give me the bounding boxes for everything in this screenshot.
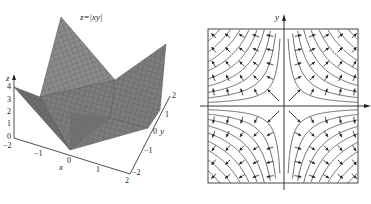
arrow-head-icon	[240, 89, 243, 93]
arrow-head-icon	[267, 175, 270, 178]
arrow-head-icon	[298, 147, 302, 150]
surface-plot-panel: z 4 3 2 1 0 −2 −1 0 1 2 x −2 −1 0 y 1 2 …	[0, 0, 190, 204]
vf-y-axis-arrow-icon	[282, 14, 286, 21]
level-curve	[208, 171, 220, 183]
arrow-head-icon	[212, 120, 215, 123]
arrow-head-icon	[298, 62, 302, 65]
arrow-head-icon	[325, 120, 328, 124]
z-tick-0: 0	[7, 132, 11, 141]
arrow-head-icon	[298, 175, 301, 178]
y-tick-2: 2	[172, 91, 176, 100]
vector-field-panel: y	[185, 0, 371, 204]
y-tick-1: 1	[165, 110, 169, 119]
level-curve	[208, 29, 220, 41]
x-tick-1: 1	[96, 165, 100, 174]
x-tick-neg1: −1	[34, 149, 43, 158]
y-axis-label: y	[159, 126, 164, 136]
origin-arrow	[272, 94, 279, 101]
arrow-head-icon	[353, 120, 356, 123]
level-curve	[311, 134, 358, 182]
origin-arrow	[272, 111, 279, 118]
z-tick-2: 2	[7, 107, 11, 116]
level-curve	[304, 127, 358, 183]
arrow-head-icon	[325, 89, 328, 93]
level-curve	[208, 110, 280, 174]
level-curve	[304, 29, 358, 85]
surface-plot: z 4 3 2 1 0 −2 −1 0 1 2 x −2 −1 0 y 1 2 …	[0, 0, 190, 204]
level-curve	[288, 39, 358, 103]
z-axis-arrow-icon	[12, 74, 16, 80]
x-axis-label: x	[58, 162, 63, 172]
level-curve	[208, 39, 280, 103]
vf-x-axis-arrow-icon	[364, 104, 371, 108]
y-tick-neg1: −1	[144, 146, 153, 155]
level-curve	[293, 34, 358, 98]
arrow-head-icon	[267, 62, 271, 65]
arrow-head-icon	[267, 147, 271, 150]
z-tick-3: 3	[7, 95, 11, 104]
arrow-head-icon	[212, 89, 215, 92]
origin-arrow	[289, 111, 296, 118]
arrow-head-icon	[353, 89, 356, 92]
arrow-head-icon	[240, 120, 243, 124]
vector-field-plot: y	[185, 0, 371, 204]
level-curve	[311, 30, 358, 78]
z-tick-1: 1	[7, 119, 11, 128]
y-tick-0: 0	[153, 127, 157, 136]
y-tick-neg2: −2	[132, 168, 141, 177]
surface-title: z=|xy|	[79, 12, 103, 22]
z-tick-4: 4	[7, 82, 11, 91]
arrow-head-icon	[267, 34, 270, 37]
level-curve	[293, 114, 358, 178]
surface-back-right	[110, 44, 166, 128]
arrow-head-icon	[298, 34, 301, 37]
level-curve	[288, 110, 358, 174]
x-tick-0: 0	[67, 156, 71, 165]
vf-y-axis-label: y	[274, 12, 279, 22]
x-tick-2: 2	[125, 176, 129, 185]
x-tick-neg2: −2	[3, 141, 12, 150]
origin-arrow	[289, 94, 296, 101]
